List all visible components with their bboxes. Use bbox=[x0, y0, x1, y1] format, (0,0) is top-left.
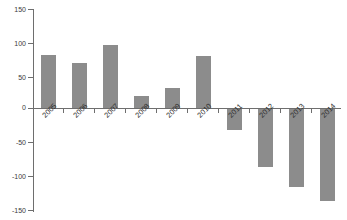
y-axis-tick-label: -50 bbox=[0, 139, 26, 146]
x-axis-tick-mark bbox=[187, 109, 188, 113]
y-axis-tick-label: 100 bbox=[0, 40, 26, 47]
x-axis-tick-mark bbox=[218, 109, 219, 113]
y-tick-label-group: 150 bbox=[0, 6, 26, 14]
bar-2014[interactable] bbox=[320, 109, 335, 201]
bar-2010[interactable] bbox=[196, 56, 211, 108]
y-axis-tick-label: 50 bbox=[0, 74, 26, 81]
x-axis-tick-mark bbox=[249, 109, 250, 113]
x-axis-tick-mark bbox=[156, 109, 157, 113]
y-tick-label-group: -50 bbox=[0, 139, 26, 147]
y-axis-tick-label: 150 bbox=[0, 6, 26, 13]
bar-2007[interactable] bbox=[103, 45, 118, 108]
x-axis-tick-mark bbox=[311, 109, 312, 113]
y-tick-label-group: 100 bbox=[0, 40, 26, 48]
y-axis-tick-label: -100 bbox=[0, 173, 26, 180]
y-tick-label-group: -100 bbox=[0, 173, 26, 181]
x-axis-tick-mark bbox=[125, 109, 126, 113]
x-axis-tick-mark bbox=[63, 109, 64, 113]
y-axis-tick-label: 0 bbox=[0, 104, 26, 111]
y-tick-label-group: 50 bbox=[0, 74, 26, 82]
y-tick-label-group: -150 bbox=[0, 207, 26, 215]
x-axis-tick-mark bbox=[94, 109, 95, 113]
x-axis-tick-mark bbox=[280, 109, 281, 113]
bar-2013[interactable] bbox=[289, 109, 304, 187]
bar-2006[interactable] bbox=[72, 63, 87, 108]
y-axis-tick-label: -150 bbox=[0, 207, 26, 214]
y-tick-label-group: 0 bbox=[0, 104, 26, 112]
bar-chart: 150 100 50 0 -50 -100 -150 bbox=[0, 0, 347, 220]
bar-2005[interactable] bbox=[41, 55, 56, 108]
y-axis-spine bbox=[33, 9, 34, 212]
